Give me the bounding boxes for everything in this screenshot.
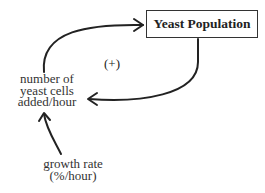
loop-polarity-label: (+): [104, 56, 120, 72]
growth-rate-label: growth rate (%/hour): [30, 158, 116, 181]
arrow-param-to-flow: [44, 114, 61, 154]
stock-label: Yeast Population: [153, 16, 250, 32]
yeast-population-stock: Yeast Population: [146, 10, 258, 38]
arrow-flow-to-stock: [44, 25, 143, 72]
flow-label: number of yeast cells added/hour: [4, 73, 90, 108]
growth-rate-line-2: (%/hour): [30, 170, 116, 182]
flow-label-line-3: added/hour: [4, 96, 90, 108]
